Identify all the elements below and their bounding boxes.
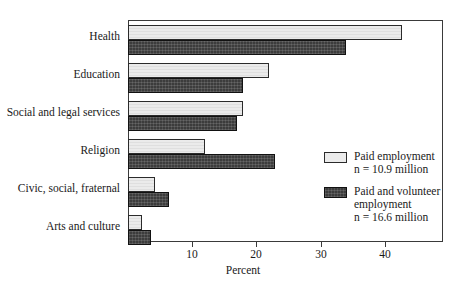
x-axis-title-text: Percent <box>226 264 260 276</box>
legend-item-paid-volunteer: Paid and volunteer employment n = 16.6 m… <box>324 185 452 224</box>
x-tick-10 <box>192 242 193 247</box>
bar-health-paid <box>128 25 402 40</box>
bar-religion-paid-volunteer <box>128 154 275 169</box>
y-label-education: Education <box>73 69 120 81</box>
legend-note-paid-volunteer: n = 16.6 million <box>354 211 452 224</box>
bar-social-legal-paid <box>128 101 243 116</box>
bar-religion-paid <box>128 139 205 154</box>
legend-label-paid-volunteer-line1: Paid and volunteer <box>354 185 452 198</box>
legend-note-paid: n = 10.9 million <box>354 163 452 176</box>
bar-civic-paid <box>128 177 155 192</box>
bar-education-paid <box>128 63 269 78</box>
bar-civic-paid-volunteer <box>128 192 169 207</box>
bar-health-paid-volunteer <box>128 40 346 55</box>
y-label-civic: Civic, social, fraternal <box>18 183 120 195</box>
y-label-health: Health <box>89 31 120 43</box>
bar-arts-paid-volunteer <box>128 230 151 245</box>
x-tick-label-10: 10 <box>186 249 198 261</box>
x-tick-40 <box>385 242 386 247</box>
bar-education-paid-volunteer <box>128 78 243 93</box>
x-tick-label-20: 20 <box>250 249 262 261</box>
y-label-social-legal: Social and legal services <box>7 107 120 119</box>
x-tick-label-30: 30 <box>315 249 327 261</box>
y-axis-labels: Health Education Social and legal servic… <box>0 0 124 286</box>
chart-legend: Paid employment n = 10.9 million Paid an… <box>324 150 452 233</box>
x-tick-label-40: 40 <box>379 249 391 261</box>
y-label-arts: Arts and culture <box>46 221 120 233</box>
bar-arts-paid <box>128 215 142 230</box>
bar-social-legal-paid-volunteer <box>128 116 237 131</box>
light-swatch-icon <box>324 152 347 163</box>
x-tick-30 <box>321 242 322 247</box>
bar-chart: Health Education Social and legal servic… <box>0 0 458 286</box>
x-tick-20 <box>256 242 257 247</box>
legend-label-paid: Paid employment <box>354 150 452 163</box>
legend-item-paid-employment: Paid employment n = 10.9 million <box>324 150 452 176</box>
dark-swatch-icon <box>324 187 347 198</box>
x-axis-title: Percent <box>0 265 458 277</box>
y-label-religion: Religion <box>80 145 120 157</box>
legend-label-paid-volunteer-line2: employment <box>354 198 452 211</box>
